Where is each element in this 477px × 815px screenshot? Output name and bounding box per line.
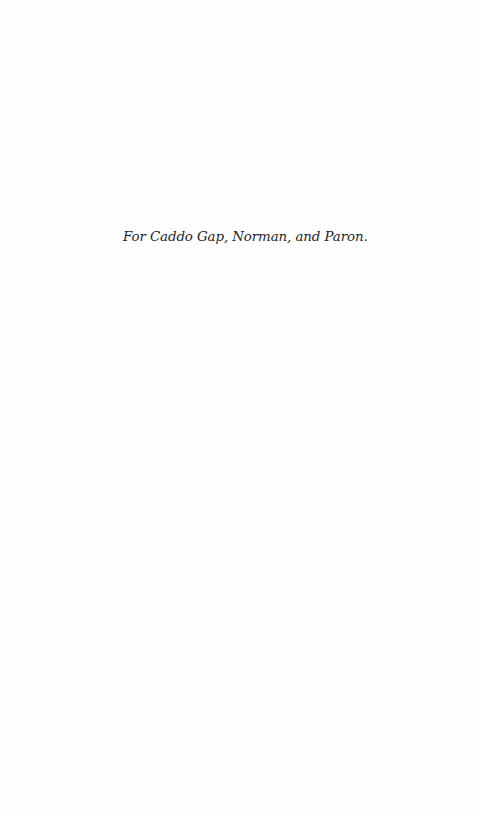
dedication-page: For Caddo Gap, Norman, and Paron. xyxy=(0,0,477,815)
dedication-text: For Caddo Gap, Norman, and Paron. xyxy=(123,227,368,247)
